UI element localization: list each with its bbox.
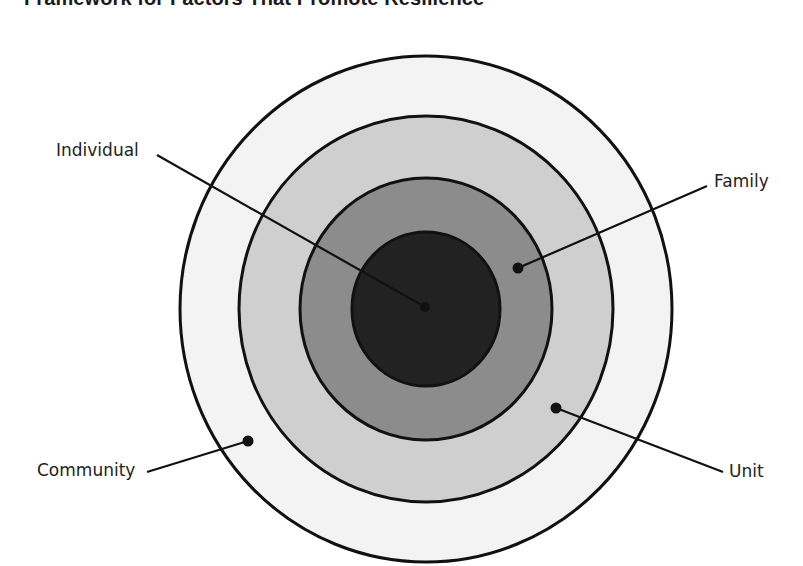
marker-dot-family <box>513 263 524 274</box>
label-community: Community <box>37 462 135 479</box>
marker-dot-unit <box>551 403 562 414</box>
label-individual: Individual <box>56 142 139 159</box>
label-family: Family <box>714 173 769 190</box>
marker-dot-individual <box>420 302 430 312</box>
marker-dot-community <box>243 436 254 447</box>
resilience-diagram <box>0 0 803 566</box>
label-unit: Unit <box>729 463 764 480</box>
